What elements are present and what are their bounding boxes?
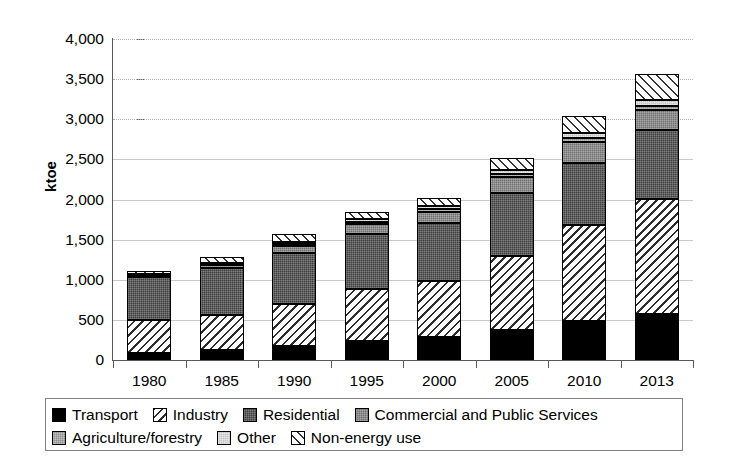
bar-segment[interactable] [562, 163, 606, 226]
bar-segment[interactable] [417, 337, 461, 360]
x-tick-label: 1990 [277, 372, 311, 390]
bar-segment[interactable] [345, 234, 389, 289]
bar-segment[interactable] [635, 110, 679, 130]
x-tick-label: 1980 [132, 372, 166, 390]
legend-swatch-icon [217, 431, 231, 445]
y-tick-label: 2,000 [38, 191, 104, 209]
legend-swatch-icon [291, 431, 305, 445]
y-tick-label: 1,500 [38, 231, 104, 249]
legend-label: Industry [173, 407, 228, 423]
bar-segment[interactable] [417, 212, 461, 223]
bar-segment[interactable] [635, 199, 679, 315]
x-tick-mark [548, 361, 549, 368]
bar-segment[interactable] [562, 225, 606, 320]
bar-segment[interactable] [490, 330, 534, 360]
bar-segment[interactable] [635, 314, 679, 360]
bar-segment[interactable] [417, 198, 461, 206]
legend-item[interactable]: Industry [153, 407, 228, 423]
bar-segment[interactable] [345, 219, 389, 222]
bar-segment[interactable] [272, 346, 316, 360]
x-tick-mark [331, 361, 332, 368]
y-tick-label: 4,000 [38, 30, 104, 48]
x-tick-mark [621, 361, 622, 368]
bar-stack[interactable] [345, 39, 389, 360]
bar-segment[interactable] [272, 244, 316, 246]
bar-segment[interactable] [562, 116, 606, 133]
bar-segment[interactable] [345, 224, 389, 234]
y-tick-label: 500 [38, 311, 104, 329]
y-tick-label: 0 [38, 351, 104, 369]
bar-segment[interactable] [635, 130, 679, 199]
bar-segment[interactable] [127, 271, 171, 273]
legend-item[interactable]: Other [217, 430, 276, 446]
bar-segment[interactable] [345, 222, 389, 225]
bar-segment[interactable] [562, 138, 606, 142]
y-tick-label: 3,000 [38, 110, 104, 128]
bar-segment[interactable] [417, 209, 461, 212]
bar-segment[interactable] [345, 289, 389, 340]
bar-segment[interactable] [562, 133, 606, 138]
y-tick-label: 1,000 [38, 271, 104, 289]
bar-stack[interactable] [635, 39, 679, 360]
bar-segment[interactable] [200, 350, 244, 360]
x-tick-label: 2010 [567, 372, 601, 390]
bar-segment[interactable] [272, 242, 316, 244]
bar-segment[interactable] [490, 158, 534, 170]
legend-label: Transport [72, 407, 138, 423]
legend-label: Agriculture/forestry [72, 430, 202, 446]
bar-segment[interactable] [127, 353, 171, 360]
bar-segment[interactable] [635, 74, 679, 101]
bar-segment[interactable] [562, 321, 606, 360]
legend-label: Residential [263, 407, 340, 423]
bar-segment[interactable] [272, 234, 316, 242]
bar-stack[interactable] [417, 39, 461, 360]
bar-segment[interactable] [490, 177, 534, 193]
bar-segment[interactable] [490, 174, 534, 178]
legend-item[interactable]: Residential [243, 407, 340, 423]
legend-label: Commercial and Public Services [375, 407, 598, 423]
bar-segment[interactable] [345, 341, 389, 360]
y-tick-label: 2,500 [38, 150, 104, 168]
bar-segment[interactable] [272, 253, 316, 304]
x-tick-label: 1985 [205, 372, 239, 390]
x-tick-label: 2005 [495, 372, 529, 390]
bar-segment[interactable] [635, 100, 679, 105]
bar-segment[interactable] [127, 320, 171, 353]
bar-stack[interactable] [127, 39, 171, 360]
legend-item[interactable]: Non-energy use [291, 430, 421, 446]
x-tick-label: 2013 [640, 372, 674, 390]
bar-stack[interactable] [490, 39, 534, 360]
bar-segment[interactable] [127, 277, 171, 320]
x-tick-mark [693, 361, 694, 368]
bar-segment[interactable] [562, 142, 606, 162]
bar-segment[interactable] [200, 315, 244, 350]
bar-segment[interactable] [417, 223, 461, 281]
legend-item[interactable]: Agriculture/forestry [52, 430, 202, 446]
bar-segment[interactable] [417, 206, 461, 209]
bar-segment[interactable] [272, 246, 316, 252]
legend-item[interactable]: Transport [52, 407, 138, 423]
legend-swatch-icon [355, 408, 369, 422]
bar-segment[interactable] [200, 257, 244, 262]
x-tick-mark [258, 361, 259, 368]
bar-segment[interactable] [345, 212, 389, 219]
bar-segment[interactable] [200, 265, 244, 268]
bar-segment[interactable] [200, 268, 244, 315]
bar-stack[interactable] [562, 39, 606, 360]
legend-row-top: TransportIndustryResidentialCommercial a… [52, 403, 676, 426]
bar-stack[interactable] [272, 39, 316, 360]
legend-item[interactable]: Commercial and Public Services [355, 407, 598, 423]
legend-swatch-icon [52, 431, 66, 445]
legend-swatch-icon [52, 408, 66, 422]
y-tick-label: 3,500 [38, 70, 104, 88]
bar-segment[interactable] [490, 256, 534, 329]
x-tick-mark [186, 361, 187, 368]
bar-segment[interactable] [417, 281, 461, 337]
bar-stack[interactable] [200, 39, 244, 360]
bar-segment[interactable] [490, 170, 534, 174]
bar-segment[interactable] [635, 106, 679, 111]
bar-segment[interactable] [490, 193, 534, 256]
bar-segment[interactable] [272, 304, 316, 346]
legend-label: Non-energy use [311, 430, 421, 446]
legend-label: Other [237, 430, 276, 446]
